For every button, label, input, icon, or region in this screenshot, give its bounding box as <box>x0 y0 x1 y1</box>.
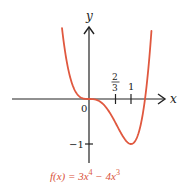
x-axis-label: x <box>170 92 177 106</box>
origin-label: 0 <box>81 103 87 114</box>
function-graph: x y 0 2 3 1 −1 f(x) = 3x4 − 4x3 <box>0 0 188 186</box>
function-curve <box>62 28 151 144</box>
x-tick-label-two-thirds-num: 2 <box>112 72 118 82</box>
y-axis-label: y <box>85 9 93 23</box>
caption-exp2: 3 <box>116 168 120 177</box>
x-tick-label-one: 1 <box>128 81 134 92</box>
caption-mid: − 4x <box>93 170 116 182</box>
function-caption: f(x) = 3x4 − 4x3 <box>50 168 120 183</box>
x-tick-label-two-thirds-den: 3 <box>112 83 118 93</box>
caption-prefix: f(x) = 3x <box>50 170 89 183</box>
y-tick-label-minus-one: −1 <box>69 139 84 150</box>
